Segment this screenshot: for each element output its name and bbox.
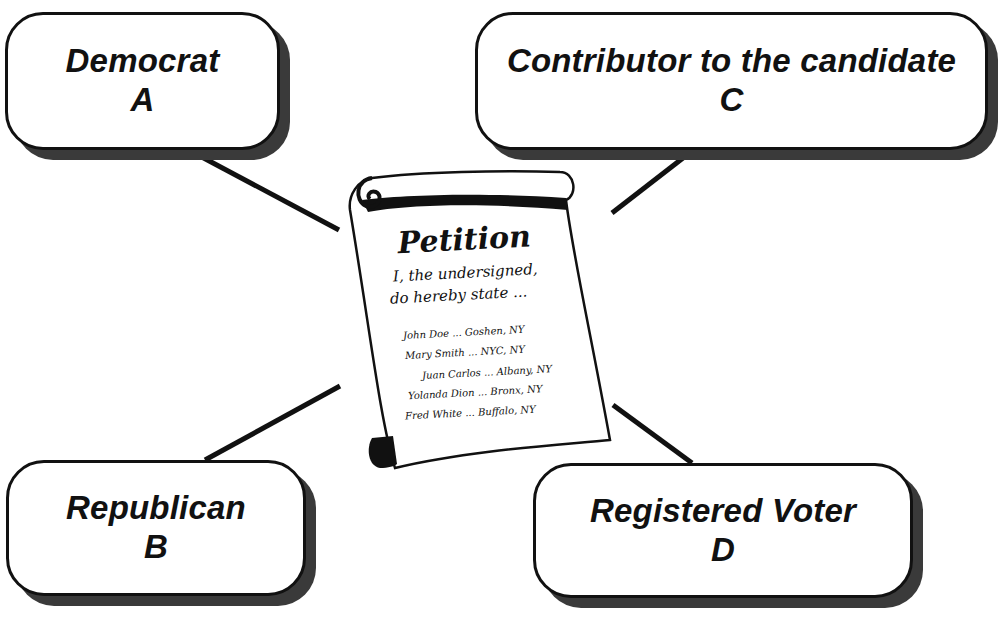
connector-line-b	[205, 386, 340, 460]
petition-scroll-icon: Petition I, the undersigned, do hereby s…	[350, 171, 610, 468]
option-a-letter: A	[131, 81, 155, 120]
connector-line-a	[198, 155, 339, 230]
option-d-box: Registered Voter D	[533, 463, 913, 598]
option-b-letter: B	[144, 528, 168, 567]
option-d-label: Registered Voter	[590, 492, 856, 531]
connector-line-d	[613, 405, 692, 463]
option-d-letter: D	[711, 531, 735, 570]
option-c-box: Contributor to the candidate C	[475, 12, 988, 150]
petition-diagram: Petition I, the undersigned, do hereby s…	[0, 0, 1004, 619]
option-a-container: Democrat A	[5, 12, 295, 162]
option-a-label: Democrat	[66, 42, 220, 81]
option-b-container: Republican B	[6, 460, 321, 608]
option-c-label: Contributor to the candidate	[507, 42, 956, 81]
petition-title: Petition	[396, 218, 532, 260]
option-b-box: Republican B	[6, 460, 306, 596]
option-b-label: Republican	[66, 489, 246, 528]
option-d-container: Registered Voter D	[533, 463, 928, 611]
option-c-container: Contributor to the candidate C	[475, 12, 1000, 162]
option-c-letter: C	[720, 81, 744, 120]
option-a-box: Democrat A	[5, 12, 280, 150]
connector-line-c	[612, 158, 683, 213]
